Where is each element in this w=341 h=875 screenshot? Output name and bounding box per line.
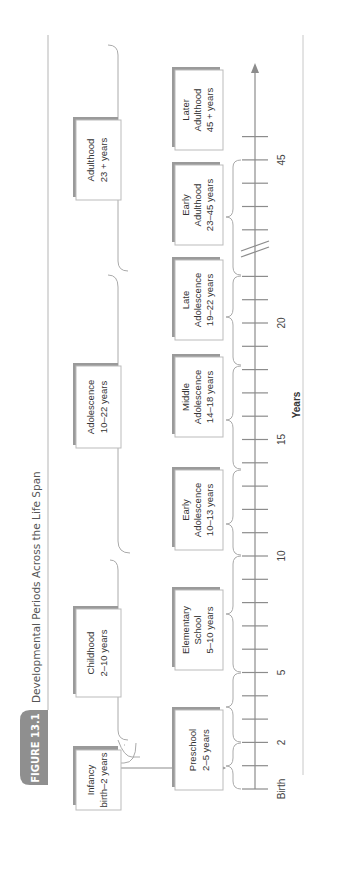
tick-label-10: 10 [276, 550, 287, 562]
figure-label: FIGURE 13.1 [30, 713, 41, 783]
figure-container: FIGURE 13.1 Developmental Periods Across… [0, 0, 341, 875]
sub-period-line: Elementary [180, 606, 191, 654]
sub-period-line: School [192, 615, 203, 644]
sub-period-line: Adulthood [192, 89, 203, 132]
period-box-adolescence: Adolescence 10–22 years [73, 363, 121, 448]
sub-period-line: 14–18 years [204, 371, 215, 424]
sub-period-line: 19–22 years [204, 274, 215, 327]
sub-period-box-elementary: Elementary School 5–10 years [172, 587, 223, 670]
period-box-infancy: Infancy birth–2 years [73, 746, 121, 810]
period-name: Infancy [85, 764, 96, 795]
sub-period-braces [226, 160, 241, 789]
period-range: 10–22 years [98, 381, 109, 434]
sub-period-line: Late [180, 291, 191, 310]
sub-period-box-middle-adolescence: Middle Adolescence 14–18 years [172, 354, 223, 437]
sub-period-line: 2–5 years [200, 729, 211, 771]
figure-title: Developmental Periods Across the Life Sp… [30, 471, 42, 703]
axis-arrow-icon [251, 63, 259, 73]
sub-period-line: Adolescence [192, 370, 203, 424]
period-name: Adolescence [85, 380, 96, 434]
period-name: Childhood [85, 632, 96, 675]
sub-period-line: Adulthood [192, 184, 203, 227]
tick-label-45: 45 [276, 154, 287, 166]
sub-period-line: Preschool [187, 729, 198, 771]
sub-period-box-preschool: Preschool 2–5 years [172, 707, 223, 790]
sub-period-line: 10–13 years [204, 484, 215, 537]
tick-label-birth: Birth [276, 779, 287, 800]
sub-period-box-early-adolescence: Early Adolescence 10–13 years [172, 467, 223, 550]
period-box-childhood: Childhood 2–10 years [73, 606, 121, 697]
period-range: 23 + years [98, 137, 109, 182]
sub-period-line: Adolescence [192, 273, 203, 327]
sub-period-line: Early [180, 499, 191, 521]
sub-period-box-later-adulthood: Later Adulthood 45 + years [172, 67, 223, 150]
sub-period-box-early-adulthood: Early Adulthood 23–45 years [172, 162, 223, 245]
sub-period-box-late-adolescence: Late Adolescence 19–22 years [172, 257, 223, 340]
sub-period-line: Adolescence [192, 483, 203, 537]
axis-title: Years [291, 391, 302, 418]
tick-label-20: 20 [276, 317, 287, 329]
sub-period-line: Early [180, 194, 191, 216]
sub-period-line: Later [180, 99, 191, 121]
tick-label-2: 2 [276, 739, 287, 745]
period-name: Adulthood [85, 139, 96, 182]
sub-period-line: 5–10 years [204, 606, 215, 653]
sub-period-line: 45 + years [204, 87, 215, 132]
tick-label-5: 5 [276, 669, 287, 675]
period-range: 2–10 years [98, 629, 109, 676]
sub-period-line: Middle [180, 383, 191, 411]
period-box-adulthood: Adulthood 23 + years [73, 117, 121, 200]
sub-period-line: 23–45 years [204, 179, 215, 232]
period-range: birth–2 years [98, 752, 109, 807]
tick-label-15: 15 [276, 434, 287, 446]
